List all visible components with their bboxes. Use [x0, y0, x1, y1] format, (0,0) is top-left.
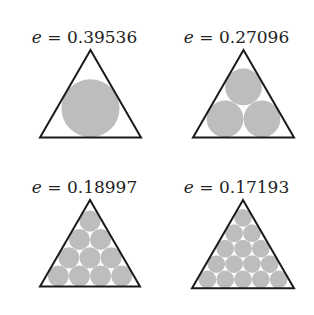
panel-15-circles: e = 0.17193: [158, 150, 314, 307]
triangle-packing-diagram: [6, 150, 163, 307]
panel-10-circles: e = 0.18997: [6, 150, 163, 307]
triangle-packing-diagram: [158, 150, 314, 307]
packed-circle: [61, 79, 119, 137]
packed-circle: [234, 271, 252, 289]
packed-circle: [252, 271, 270, 289]
panel-1-circle: e = 0.39536: [6, 0, 163, 157]
triangle-packing-diagram: [6, 0, 163, 157]
packed-circle: [225, 255, 243, 273]
panel-3-circles: e = 0.27096: [158, 0, 314, 157]
packed-circle: [216, 271, 234, 289]
packed-circle: [243, 255, 261, 273]
triangle-packing-diagram: [158, 0, 314, 157]
packed-circle: [90, 266, 111, 287]
packed-circle: [234, 240, 252, 258]
packed-circle: [69, 266, 90, 287]
packed-circle: [79, 247, 100, 268]
